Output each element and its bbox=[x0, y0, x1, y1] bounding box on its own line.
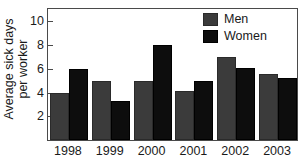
bar-men-2001 bbox=[175, 91, 194, 140]
bar-men-1998 bbox=[50, 93, 69, 141]
legend-label-women: Women bbox=[224, 29, 267, 43]
y-axis-title-line-2: per worker bbox=[16, 39, 30, 98]
bar-men-2002 bbox=[217, 57, 236, 140]
y-tick-label: 6 bbox=[37, 62, 44, 76]
x-axis-label-2002: 2002 bbox=[221, 144, 249, 158]
chart-legend: Men Women bbox=[203, 12, 267, 43]
bar-women-2002 bbox=[236, 68, 255, 140]
bar-women-2000 bbox=[153, 45, 172, 140]
bar-women-2001 bbox=[194, 81, 213, 140]
sick-days-bar-chart: Average sick days per worker 246810 1998… bbox=[0, 0, 305, 168]
x-axis-labels: 199819992000200120022003 bbox=[47, 144, 298, 164]
legend-swatch-men-icon bbox=[203, 13, 218, 26]
bar-men-2000 bbox=[134, 81, 153, 140]
y-axis-title-line-1: Average sick days bbox=[2, 18, 16, 119]
y-tick-label: 10 bbox=[30, 14, 44, 28]
legend-swatch-women-icon bbox=[203, 30, 218, 43]
y-tick-label: 8 bbox=[37, 38, 44, 52]
x-axis-label-1998: 1998 bbox=[54, 144, 82, 158]
x-axis-label-1999: 1999 bbox=[96, 144, 124, 158]
bar-women-2003 bbox=[278, 78, 297, 140]
x-axis-label-2003: 2003 bbox=[263, 144, 291, 158]
legend-label-men: Men bbox=[224, 12, 248, 26]
legend-item-men: Men bbox=[203, 12, 267, 26]
y-axis-title: Average sick days per worker bbox=[0, 0, 33, 139]
bar-men-2003 bbox=[259, 74, 278, 141]
y-tick-label: 2 bbox=[37, 109, 44, 123]
y-tick-label: 4 bbox=[37, 86, 44, 100]
x-axis-label-2000: 2000 bbox=[138, 144, 166, 158]
bar-women-1998 bbox=[69, 69, 88, 140]
legend-item-women: Women bbox=[203, 29, 267, 43]
bar-women-1999 bbox=[111, 101, 130, 140]
bar-men-1999 bbox=[92, 81, 111, 140]
x-axis-label-2001: 2001 bbox=[180, 144, 208, 158]
